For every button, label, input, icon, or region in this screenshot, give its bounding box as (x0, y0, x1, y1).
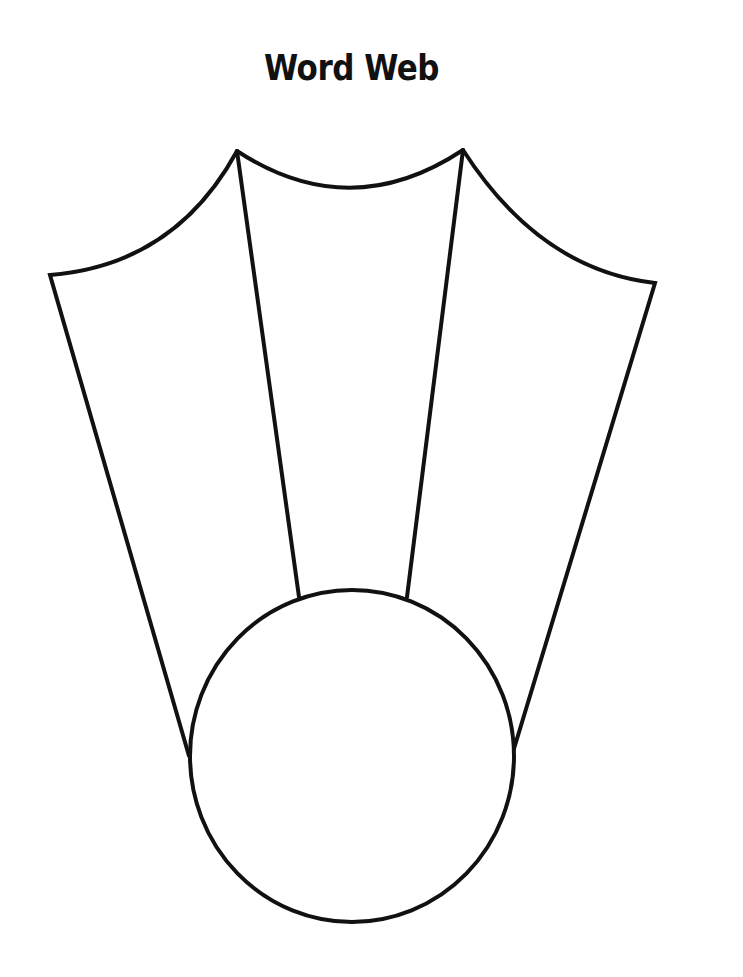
divider-left (237, 151, 299, 597)
spoke-center[interactable] (237, 150, 463, 188)
spoke-center-top-curve (237, 150, 463, 188)
word-web-diagram (0, 0, 743, 977)
spoke-right[interactable] (463, 150, 655, 752)
divider-right (407, 150, 463, 597)
spoke-left-outline (50, 151, 237, 756)
center-circle[interactable] (190, 590, 514, 922)
spoke-left[interactable] (50, 151, 237, 756)
spoke-right-outline (463, 150, 655, 752)
